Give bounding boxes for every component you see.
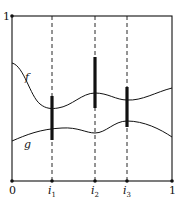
curve-g-label: g [24, 138, 31, 151]
x-i3-label: i3 [123, 184, 131, 199]
x-end-label: 1 [169, 184, 176, 197]
origin-dot [10, 179, 14, 183]
y-axis-top-label: 1 [3, 10, 10, 23]
curve-g [12, 121, 172, 141]
diagram-canvas: f g 1 0 i1 i2 i3 1 [0, 0, 184, 200]
x-end-dot [170, 179, 174, 183]
x-i1-label: i1 [48, 184, 56, 199]
curve-f [12, 63, 172, 109]
top-left-dot [10, 14, 14, 18]
curve-f-label: f [24, 71, 31, 84]
x-i2-label: i2 [91, 184, 99, 199]
x-origin-label: 0 [9, 184, 16, 197]
